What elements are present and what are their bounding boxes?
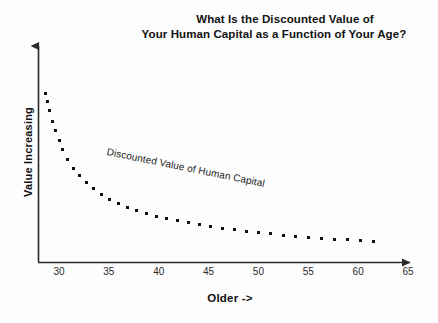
data-point — [145, 212, 148, 215]
data-point — [307, 236, 310, 239]
data-point — [165, 217, 168, 220]
data-point — [117, 202, 120, 205]
data-point — [78, 174, 81, 177]
data-point — [48, 109, 51, 112]
data-point — [221, 227, 224, 230]
data-point — [100, 193, 103, 196]
data-point — [51, 120, 54, 123]
x-tick-label-45: 45 — [194, 266, 224, 277]
data-point — [282, 234, 285, 237]
data-point — [372, 240, 375, 243]
data-point — [108, 198, 111, 201]
data-point — [54, 129, 57, 132]
data-point — [198, 223, 201, 226]
x-tick-label-40: 40 — [144, 266, 174, 277]
data-point — [346, 238, 349, 241]
x-tick-label-65: 65 — [393, 266, 423, 277]
data-point — [187, 221, 190, 224]
data-point — [92, 187, 95, 190]
data-point — [245, 230, 248, 233]
data-point — [61, 148, 64, 151]
data-point — [209, 225, 212, 228]
x-tick-label-60: 60 — [343, 266, 373, 277]
x-tick-label-55: 55 — [293, 266, 323, 277]
data-point — [333, 238, 336, 241]
data-point — [294, 235, 297, 238]
y-axis-title: Value Increasing — [22, 87, 34, 217]
data-point — [44, 92, 47, 95]
x-tick-label-30: 30 — [44, 266, 74, 277]
data-point — [135, 209, 138, 212]
data-point — [320, 237, 323, 240]
x-tick-label-35: 35 — [94, 266, 124, 277]
data-point — [359, 239, 362, 242]
data-point — [269, 232, 272, 235]
data-point — [85, 181, 88, 184]
data-point — [176, 219, 179, 222]
data-point — [66, 158, 69, 161]
data-point — [155, 215, 158, 218]
data-point — [72, 167, 75, 170]
data-point — [257, 231, 260, 234]
x-axis-title: Older -> — [175, 292, 285, 304]
data-point — [46, 100, 49, 103]
data-point — [126, 206, 129, 209]
data-point — [58, 139, 61, 142]
data-point — [233, 228, 236, 231]
chart-container: What Is the Discounted Value of Your Hum… — [0, 0, 438, 323]
x-tick-label-50: 50 — [243, 266, 273, 277]
